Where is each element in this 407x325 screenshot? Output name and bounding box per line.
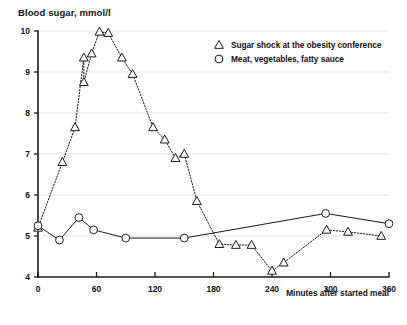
x-tick-label: 60: [92, 284, 102, 294]
data-point-marker: [90, 226, 98, 234]
legend-triangle-icon: [215, 40, 224, 48]
data-point-marker: [71, 123, 80, 131]
y-tick-label: 5: [25, 231, 30, 241]
chart-container: Blood sugar, mmol/l 45678910 06012018024…: [0, 0, 407, 325]
y-tick-label: 10: [21, 26, 31, 36]
data-point-marker: [322, 225, 331, 233]
data-point-marker: [75, 214, 83, 222]
x-tick-label: 180: [206, 284, 220, 294]
data-point-marker: [385, 220, 393, 228]
y-tick-label: 9: [25, 67, 30, 77]
legend-item-label: Sugar shock at the obesity conference: [231, 40, 382, 50]
legend-item-label: Meat, vegetables, fatty sauce: [231, 54, 344, 64]
data-point-marker: [171, 153, 180, 161]
data-point-marker: [322, 210, 330, 218]
data-point-marker: [232, 240, 241, 248]
data-point-marker: [58, 158, 67, 166]
data-point-marker: [149, 123, 158, 131]
x-tick-label: 120: [148, 284, 162, 294]
legend-circle-icon: [215, 55, 223, 63]
y-axis-ticks: 45678910: [21, 26, 38, 282]
data-point-marker: [104, 28, 113, 36]
chart-legend: Sugar shock at the obesity conferenceMea…: [215, 40, 382, 64]
data-point-marker: [128, 69, 137, 77]
y-tick-label: 6: [25, 190, 30, 200]
data-point-marker: [117, 53, 126, 61]
data-point-marker: [215, 240, 224, 248]
blood-sugar-line-chart: Blood sugar, mmol/l 45678910 06012018024…: [0, 0, 407, 325]
chart-title: Blood sugar, mmol/l: [18, 7, 111, 18]
data-point-marker: [56, 236, 64, 244]
data-point-marker: [247, 240, 256, 248]
x-tick-label: 240: [265, 284, 279, 294]
x-tick-label: 0: [36, 284, 41, 294]
series-line: [38, 32, 381, 271]
series-1: [34, 27, 386, 274]
y-tick-label: 7: [25, 149, 30, 159]
data-point-marker: [180, 149, 189, 157]
series-layer: [34, 27, 393, 274]
x-axis-title: Minutes after started meal: [286, 288, 389, 298]
y-tick-label: 8: [25, 108, 30, 118]
data-point-marker: [193, 197, 202, 205]
y-tick-label: 4: [25, 272, 30, 282]
data-point-marker: [87, 49, 96, 57]
series-2: [34, 210, 393, 244]
data-point-marker: [180, 234, 188, 242]
data-point-marker: [34, 222, 42, 230]
data-point-marker: [122, 234, 130, 242]
data-point-marker: [279, 258, 288, 266]
